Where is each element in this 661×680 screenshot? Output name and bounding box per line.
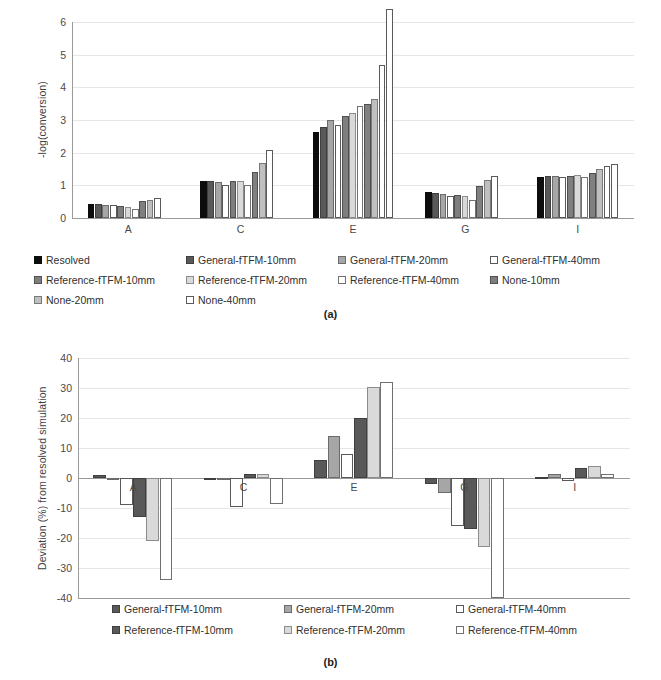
bar (117, 206, 124, 218)
bar (328, 436, 341, 478)
bar (207, 181, 214, 218)
bar (371, 99, 378, 218)
bar (154, 198, 161, 218)
chart-a-plot-area: 0123456ACEGI (72, 22, 634, 218)
x-axis-tick-label: E (349, 223, 356, 235)
gridline (72, 22, 634, 23)
bar (367, 387, 380, 479)
legend-item[interactable]: General-fTFM-20mm (284, 598, 456, 619)
gridline (78, 388, 630, 389)
bar (110, 205, 117, 218)
bar (604, 166, 611, 218)
bar (386, 9, 393, 218)
legend-item[interactable]: Reference-fTFM-20mm (284, 619, 456, 640)
bar (364, 104, 371, 218)
figure-page: -log(conversion) 0123456ACEGI ResolvedGe… (0, 0, 661, 680)
bar (252, 172, 259, 218)
legend-item[interactable]: General-fTFM-40mm (456, 598, 628, 619)
x-axis-tick-label: G (461, 223, 469, 235)
chart-a: -log(conversion) 0123456ACEGI ResolvedGe… (0, 0, 661, 330)
bar (200, 181, 207, 218)
bar (588, 466, 601, 478)
chart-a-legend: ResolvedGeneral-fTFM-10mmGeneral-fTFM-20… (34, 250, 649, 310)
x-axis-tick-label: E (350, 481, 357, 493)
y-axis-tick-label: 4 (52, 81, 66, 93)
bar (327, 120, 334, 218)
bar (139, 201, 146, 218)
legend-item[interactable]: None-10mm (490, 270, 642, 290)
bar (313, 132, 320, 218)
legend-item[interactable]: Reference-fTFM-10mm (112, 619, 284, 640)
bar (537, 177, 544, 218)
bar (257, 474, 270, 478)
legend-item[interactable]: General-fTFM-40mm (490, 250, 642, 270)
x-axis-tick-label: A (130, 481, 137, 493)
bar (88, 204, 95, 218)
bar (552, 176, 559, 218)
y-axis-tick-label: 40 (52, 352, 72, 364)
legend-item-label: Reference-fTFM-20mm (198, 274, 307, 286)
legend-item[interactable]: Resolved (34, 250, 186, 270)
x-axis-line (72, 218, 634, 219)
bar (215, 182, 222, 218)
bar (244, 185, 251, 218)
legend-item-label: General-fTFM-10mm (124, 603, 222, 615)
legend-item-label: General-fTFM-40mm (502, 254, 600, 266)
legend-item[interactable]: General-fTFM-20mm (338, 250, 490, 270)
legend-item[interactable]: General-fTFM-10mm (112, 598, 284, 619)
bar (107, 478, 120, 480)
bar (237, 181, 244, 218)
bar (581, 177, 588, 218)
legend-item[interactable]: Reference-fTFM-40mm (338, 270, 490, 290)
y-axis-tick-label: 30 (52, 382, 72, 394)
gridline (72, 55, 634, 56)
bar (341, 454, 354, 478)
bar (320, 127, 327, 218)
legend-swatch-icon (34, 276, 42, 284)
y-axis-tick-label: 5 (52, 49, 66, 61)
bar (146, 478, 159, 541)
bar (425, 192, 432, 218)
legend-swatch-icon (338, 276, 346, 284)
bar (244, 474, 257, 479)
legend-item[interactable]: Reference-fTFM-20mm (186, 270, 338, 290)
legend-swatch-icon (34, 256, 42, 264)
bar (462, 196, 469, 218)
bar (259, 163, 266, 218)
legend-swatch-icon (186, 296, 194, 304)
bar (93, 475, 106, 478)
bar (601, 474, 614, 479)
legend-item[interactable]: Reference-fTFM-10mm (34, 270, 186, 290)
y-axis-tick-label: 0 (52, 212, 66, 224)
caption-a: (a) (0, 308, 661, 320)
bar (469, 200, 476, 218)
legend-swatch-icon (456, 626, 464, 634)
bar (535, 477, 548, 479)
bar (380, 382, 393, 478)
y-axis-tick-label: 3 (52, 114, 66, 126)
legend-item-label: Resolved (46, 254, 90, 266)
chart-b-y-axis-label: Deviation (%) from resolved simulation (36, 358, 48, 598)
bar (335, 125, 342, 218)
x-axis-tick-label: C (240, 481, 248, 493)
legend-swatch-icon (490, 256, 498, 264)
bar (611, 164, 618, 218)
y-axis-tick-label: -10 (52, 502, 72, 514)
legend-swatch-icon (284, 626, 292, 634)
bar (454, 195, 461, 218)
gridline (78, 358, 630, 359)
legend-item[interactable]: General-fTFM-10mm (186, 250, 338, 270)
y-axis-tick-label: -40 (52, 592, 72, 604)
legend-swatch-icon (456, 605, 464, 613)
y-axis-tick-label: 6 (52, 16, 66, 28)
legend-swatch-icon (284, 605, 292, 613)
chart-a-y-axis-label: -log(conversion) (36, 22, 48, 218)
legend-item[interactable]: Reference-fTFM-40mm (456, 619, 628, 640)
bar (217, 478, 230, 480)
legend-item[interactable]: None-40mm (186, 290, 338, 310)
legend-swatch-icon (112, 626, 120, 634)
bar (349, 113, 356, 218)
legend-item-label: General-fTFM-10mm (198, 254, 296, 266)
bar (447, 196, 454, 218)
legend-item[interactable]: None-20mm (34, 290, 186, 310)
